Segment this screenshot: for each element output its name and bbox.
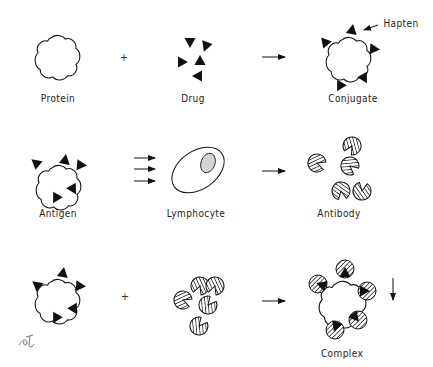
bound-antibody: [309, 275, 328, 293]
hapten-label: Hapten: [383, 18, 418, 29]
bound-antibody: [336, 260, 354, 278]
antibody-molecules-2: [171, 274, 226, 338]
antibody-molecules: [305, 134, 372, 202]
plus-sign: +: [120, 52, 128, 63]
conjugate-molecule: [317, 23, 381, 94]
antigen-molecule: [28, 153, 88, 210]
lymphocyte-label: Lymphocyte: [167, 208, 225, 219]
antibody-label: Antibody: [317, 208, 360, 219]
protein-label: Protein: [41, 93, 75, 104]
plus-sign-2: +: [121, 291, 129, 302]
drug-label: Drug: [181, 93, 205, 104]
protein-molecule: [35, 35, 80, 80]
bound-antibody: [326, 320, 344, 339]
stimulus-arrows: [134, 158, 155, 181]
immune-complex: [309, 260, 376, 339]
antigen-molecule-2: [29, 266, 87, 326]
complex-label: Complex: [321, 348, 363, 359]
antigen-label: Antigen: [39, 208, 77, 219]
bound-antibody: [358, 282, 376, 300]
conjugate-label: Conjugate: [328, 93, 378, 104]
hapten-pointer-arrow: [364, 25, 378, 30]
drug-molecules: [178, 38, 213, 82]
lymphocyte-cell: [163, 138, 232, 202]
signature-mark: [19, 335, 34, 347]
immune-complex-diagram: [0, 0, 433, 367]
